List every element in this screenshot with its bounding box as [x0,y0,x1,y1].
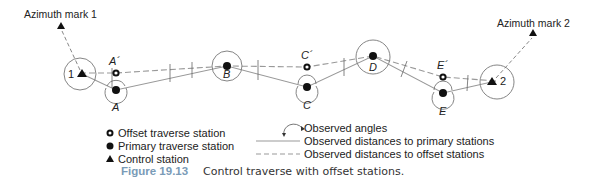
primary-station-c: C [303,83,311,111]
svg-text:Control station: Control station [118,153,189,165]
svg-text:Offset traverse station: Offset traverse station [118,127,225,139]
azimuth-mark-1-label: Azimuth mark 1 [24,8,97,20]
angle-circle-2 [480,65,514,99]
station-label: B [223,68,230,80]
svg-text:Observed distances to offset s: Observed distances to offset stations [304,148,485,160]
primary-station-b: B [223,62,231,80]
station-label: C [303,99,311,111]
station-label: A [111,101,119,113]
angle-arc-a-top [107,80,125,86]
station-label: E [439,105,447,117]
svg-text:Observed distances to primary: Observed distances to primary stations [304,135,495,147]
primary-traverse-line [80,56,496,93]
primary-station-d: D [369,52,377,73]
svg-text:Primary traverse station: Primary traverse station [118,140,234,152]
legend-item-primary-dist: Observed distances to primary stations [256,135,495,147]
legend-item-primary: Primary traverse station [107,140,235,152]
primary-station-icon [107,143,114,150]
legend-item-offset: Offset traverse station [108,127,226,139]
offset-station-icon [108,131,113,136]
primary-station-a: A [111,86,120,113]
svg-text:Observed angles: Observed angles [304,122,388,134]
station-label: 2 [500,75,506,87]
control-triangle-icon [106,155,114,162]
station-label: E´ [437,59,448,71]
figure-caption: Figure 19.13 Control traverse with offse… [121,165,404,178]
offset-traverse-line [80,56,496,81]
azimuth-line-1 [62,31,80,70]
control-triangle-icon [529,29,537,36]
primary-station-e: E [439,89,447,117]
angle-arc-e-top [434,81,452,90]
figure-number: Figure 19.13 [121,165,188,177]
angle-arc-icon [284,124,302,135]
caption-text: Control traverse with offset stations. [203,165,404,178]
azimuth-mark-1: Azimuth mark 1 [24,8,97,29]
offset-station-c: C´ [301,49,313,70]
azimuth-mark-2-label: Azimuth mark 2 [497,17,570,29]
legend-item-control: Control station [106,153,189,165]
azimuth-mark-2: Azimuth mark 2 [497,17,570,36]
angle-arc-c-top [298,75,316,84]
azimuth-line-2 [496,38,532,78]
offset-station-e: E´ [437,59,448,80]
traverse-diagram: Azimuth mark 1 Azimuth mark 2 1 2 A B C … [0,0,599,185]
control-station-1: 1 [68,68,87,80]
station-label: 1 [68,68,74,80]
legend-item-offset-dist: Observed distances to offset stations [256,148,485,160]
station-label: A´ [108,55,120,67]
distance-markers [112,58,468,91]
station-label: C´ [301,49,313,61]
legend: Offset traverse station Primary traverse… [106,122,495,165]
observed-angle-arcs [64,40,514,109]
control-triangle-icon [57,22,65,29]
station-label: D [369,61,377,73]
